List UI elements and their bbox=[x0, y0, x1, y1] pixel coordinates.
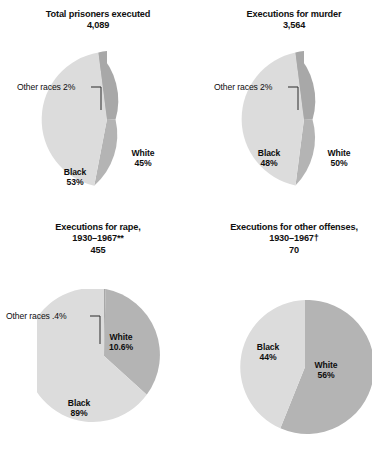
chart-panel-executions-for-murder: Executions for murder 3,564 White 50% Bl… bbox=[196, 0, 392, 32]
slice-label-black: Black 44% bbox=[242, 342, 294, 362]
chart-panel-executions-for-other-offenses: Executions for other offenses, 1930–1967… bbox=[196, 215, 392, 256]
panel-title: Executions for other offenses, 1930–1967… bbox=[196, 222, 392, 256]
chart-panel-total-prisoners-executed: Total prisoners executed 4,089 White 45%… bbox=[0, 0, 196, 32]
panel-title: Executions for murder 3,564 bbox=[196, 9, 392, 32]
callout-leader-line bbox=[0, 32, 196, 152]
panel-title: Executions for rape, 1930–1967** 455 bbox=[0, 222, 196, 256]
callout-leader-line bbox=[0, 256, 196, 386]
panel-title: Total prisoners executed 4,089 bbox=[0, 9, 196, 32]
slice-label-white: White 56% bbox=[300, 360, 352, 380]
pie-chart-grid: Total prisoners executed 4,089 White 45%… bbox=[0, 0, 392, 455]
slice-label-black: Black 53% bbox=[50, 167, 100, 187]
callout-leader-line bbox=[196, 32, 392, 152]
slice-label-black: Black 89% bbox=[53, 398, 105, 418]
chart-panel-executions-for-rape: Executions for rape, 1930–1967** 455 Whi… bbox=[0, 215, 196, 256]
